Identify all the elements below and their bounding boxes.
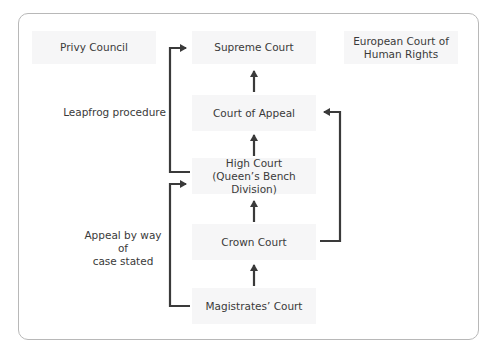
arrow-crown-to-coa xyxy=(320,112,340,241)
arrows-layer xyxy=(0,0,494,352)
arrow-leapfrog xyxy=(170,48,190,172)
arrow-case-stated xyxy=(170,184,190,306)
